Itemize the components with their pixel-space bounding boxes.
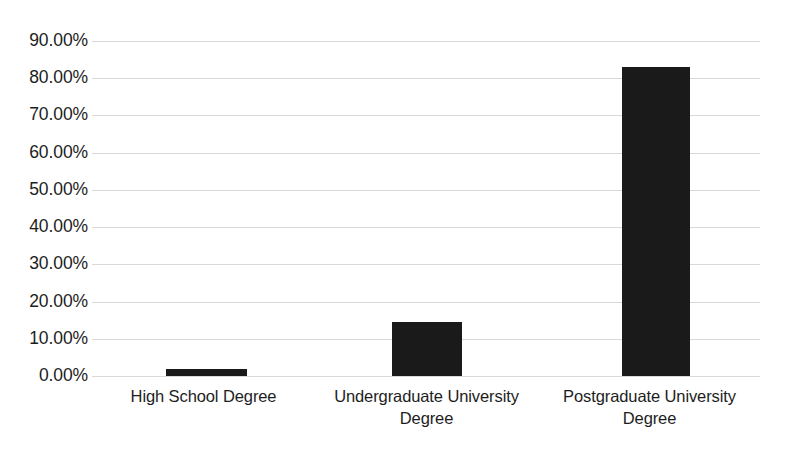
y-tick-label-90: 90.00% — [4, 32, 88, 50]
y-tick-label-50: 50.00% — [4, 181, 88, 199]
y-tick-label-60: 60.00% — [4, 144, 88, 162]
gridline-0 — [92, 376, 760, 377]
y-tick-label-20: 20.00% — [4, 293, 88, 311]
y-tick-label-30: 30.00% — [4, 256, 88, 274]
bars-layer — [92, 41, 760, 376]
x-tick-label-line-1: Postgraduate University — [538, 386, 761, 408]
bar-chart: 90.00% 80.00% 70.00% 60.00% 50.00% 40.00… — [0, 0, 793, 459]
bar-high-school-degree[interactable] — [166, 369, 247, 376]
x-tick-label-line-1: Undergraduate University — [315, 386, 538, 408]
x-tick-label-high-school-degree: High School Degree — [92, 386, 315, 408]
x-tick-label-undergraduate-university-degree: Undergraduate University Degree — [315, 386, 538, 430]
y-tick-label-40: 40.00% — [4, 218, 88, 236]
y-axis: 90.00% 80.00% 70.00% 60.00% 50.00% 40.00… — [0, 0, 88, 459]
x-tick-label-line-2: Degree — [538, 408, 761, 430]
x-tick-label-line-2: Degree — [315, 408, 538, 430]
x-tick-label-line-1: High School Degree — [92, 386, 315, 408]
y-tick-label-0: 0.00% — [4, 367, 88, 385]
bar-postgraduate-university-degree[interactable] — [622, 67, 690, 376]
x-tick-label-postgraduate-university-degree: Postgraduate University Degree — [538, 386, 761, 430]
y-tick-label-10: 10.00% — [4, 330, 88, 348]
y-tick-label-80: 80.00% — [4, 69, 88, 87]
y-tick-label-70: 70.00% — [4, 107, 88, 125]
bar-undergraduate-university-degree[interactable] — [392, 322, 462, 376]
